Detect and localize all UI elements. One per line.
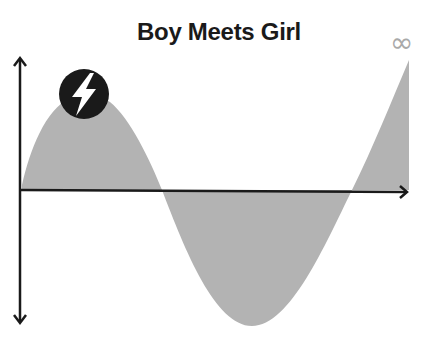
infinity-label: ∞ xyxy=(390,26,413,59)
chart-plot xyxy=(0,0,438,353)
lightning-icon xyxy=(59,69,109,119)
